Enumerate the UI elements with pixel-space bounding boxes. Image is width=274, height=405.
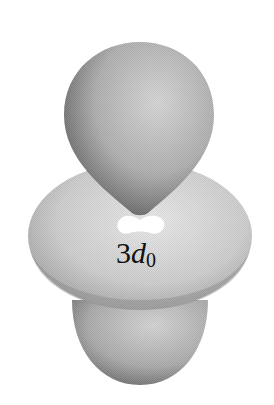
- label-letter: d: [131, 236, 146, 269]
- orbital-label: 3d0: [116, 238, 156, 270]
- orbital-figure: [0, 0, 274, 405]
- bottom-lobe: [72, 300, 208, 385]
- label-subscript: 0: [146, 249, 156, 271]
- label-prefix: 3: [116, 236, 131, 269]
